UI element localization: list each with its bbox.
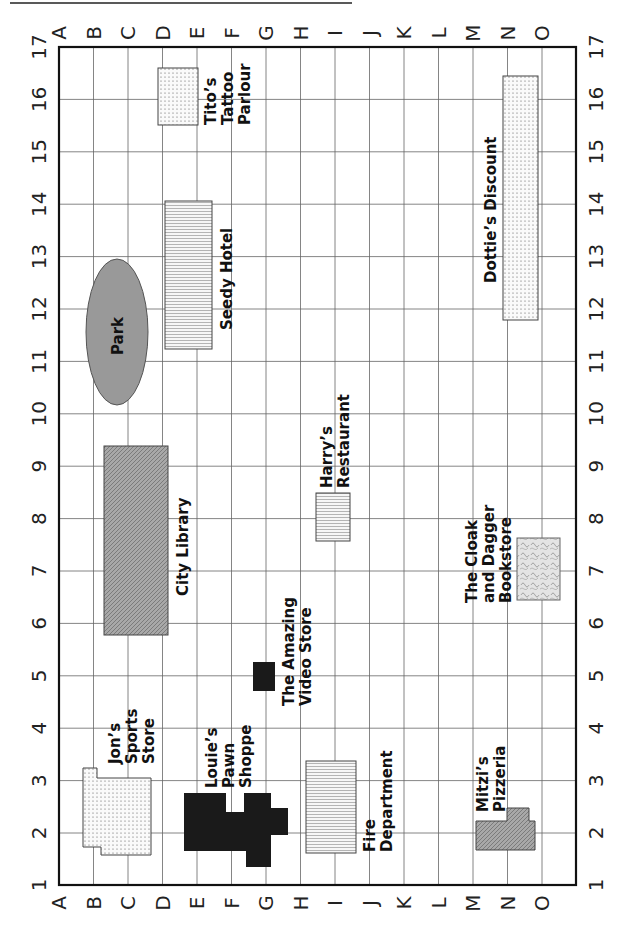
svg-text:Dottie’s Discount: Dottie’s Discount [482,136,500,283]
town-map: 1 2 3 4 5 6 7 8 9 10 11 12 13 14 15 16 1… [0,0,624,932]
location-city-library[interactable]: City Library [104,446,192,635]
svg-text:4: 4 [27,722,51,735]
svg-text:16: 16 [27,87,51,112]
svg-text:Louie’s Pawn Shopp: Louie’s Pawn Shoppe [203,722,255,788]
svg-text:Jon’s Sports Store: Jon’s Sports Store [106,703,158,765]
svg-text:7: 7 [584,565,608,578]
svg-text:F: F [220,27,244,39]
svg-text:6: 6 [27,617,51,630]
svg-text:J: J [358,30,382,38]
svg-text:3: 3 [584,774,608,787]
svg-text:11: 11 [27,349,51,374]
svg-text:M: M [461,24,485,41]
svg-text:Fire Department: Fire Department [361,750,396,852]
svg-text:10: 10 [27,401,51,426]
location-mitzis-pizzeria[interactable]: Mitzi’s Pizzeria [474,746,535,850]
svg-text:9: 9 [27,460,51,473]
column-axis-bottom: A B C D E F G H I J K L M N O [47,894,554,911]
location-jons-sports-store[interactable]: Jon’s Sports Store [83,703,158,855]
svg-text:Park: Park [109,316,127,355]
svg-text:C: C [116,896,140,910]
location-dotties-discount[interactable]: Dottie’s Discount [482,76,538,320]
svg-text:B: B [82,26,106,40]
svg-text:14: 14 [27,191,51,216]
svg-text:5: 5 [584,669,608,682]
svg-text:2: 2 [27,827,51,840]
svg-text:4: 4 [584,722,608,735]
svg-text:12: 12 [27,296,51,321]
svg-text:Tito’s Tattoo Parl: Tito’s Tattoo Parlour [202,63,254,125]
svg-text:6: 6 [584,617,608,630]
svg-text:9: 9 [584,460,608,473]
svg-text:A: A [47,896,71,910]
svg-text:13: 13 [584,244,608,269]
svg-text:A: A [47,26,71,40]
svg-text:C: C [116,26,140,40]
svg-text:D: D [151,25,175,40]
svg-text:N: N [496,26,520,41]
location-amazing-video-store[interactable]: The Amazing Video Store [253,592,315,706]
svg-text:G: G [254,895,278,911]
svg-text:O: O [530,895,554,911]
svg-text:J: J [358,900,382,908]
svg-text:12: 12 [584,296,608,321]
svg-text:3: 3 [27,774,51,787]
svg-text:E: E [185,27,209,40]
svg-text:L: L [427,897,451,909]
svg-text:I: I [323,900,347,906]
svg-text:M: M [461,894,485,911]
svg-text:8: 8 [584,512,608,525]
svg-text:17: 17 [584,34,608,59]
svg-text:K: K [392,896,416,910]
svg-text:Seedy Hotel: Seedy Hotel [218,228,236,330]
location-titos-tattoo-parlour[interactable]: Tito’s Tattoo Parlour [158,63,254,125]
svg-text:8: 8 [27,512,51,525]
svg-text:The Amazing Video Store: The Amazing Video Store [280,592,315,706]
svg-text:G: G [254,25,278,41]
svg-text:N: N [496,896,520,911]
location-harrys-restaurant[interactable]: Harry’s Restaurant [316,394,353,541]
svg-text:H: H [289,25,313,40]
svg-text:1: 1 [27,879,51,892]
svg-text:H: H [289,895,313,910]
svg-text:15: 15 [27,139,51,164]
svg-text:15: 15 [584,139,608,164]
row-axis-left: 1 2 3 4 5 6 7 8 9 10 11 12 13 14 15 16 1… [27,34,51,891]
row-axis-right: 1 2 3 4 5 6 7 8 9 10 11 12 13 14 15 16 1… [584,34,608,891]
svg-text:16: 16 [584,87,608,112]
location-seedy-hotel[interactable]: Seedy Hotel [165,201,236,349]
svg-text:Mitzi’s Pizzeria: Mitzi’s Pizzeria [474,746,509,812]
svg-text:7: 7 [27,565,51,578]
location-louies-pawn-shoppe[interactable]: Louie’s Pawn Shoppe [184,722,288,867]
location-fire-department[interactable]: Fire Department [306,750,396,853]
svg-text:13: 13 [27,244,51,269]
svg-text:1: 1 [584,879,608,892]
svg-text:10: 10 [584,401,608,426]
svg-text:2: 2 [584,827,608,840]
svg-text:L: L [427,27,451,39]
svg-text:K: K [392,26,416,40]
svg-text:E: E [185,897,209,910]
svg-text:Harry’s Restaurant: Harry’s Restaurant [318,394,353,488]
svg-text:5: 5 [27,669,51,682]
svg-text:F: F [220,897,244,909]
svg-text:B: B [82,896,106,910]
svg-text:I: I [323,30,347,36]
svg-text:11: 11 [584,349,608,374]
location-cloak-and-dagger-bookstore[interactable]: The Cloak and Dagger Bookstore [463,499,560,603]
svg-text:14: 14 [584,191,608,216]
svg-text:D: D [151,895,175,910]
svg-text:City Library: City Library [174,497,192,596]
svg-text:O: O [530,25,554,41]
location-park[interactable]: Park [86,259,148,405]
column-axis-top: A B C D E F G H I J K L M N O [47,24,554,41]
